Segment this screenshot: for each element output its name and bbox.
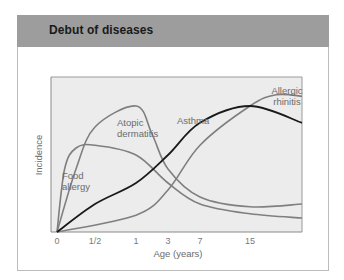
curve-label-allergic-rhinitis: Allergicrhinitis [271,85,302,107]
x-axis-label: Age (years) [153,248,202,259]
y-axis-label: Incidence [33,135,44,176]
x-tick-label: 3 [165,236,170,246]
x-tick-label: 15 [245,236,255,246]
chart: 01/213715 Age (years) Incidence Foodalle… [0,0,344,280]
x-tick-label: 7 [197,236,202,246]
x-tick-label: 1 [133,236,138,246]
x-tick-label: 0 [54,236,59,246]
curve-label-asthma: Asthma [177,115,210,126]
x-tick-label: 1/2 [89,236,102,246]
